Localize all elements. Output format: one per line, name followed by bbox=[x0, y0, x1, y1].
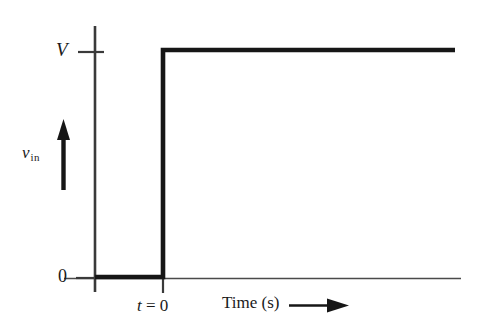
x-axis-title: Time (s) bbox=[222, 294, 279, 311]
y-tick-label-V: V bbox=[56, 40, 68, 59]
step-signal-trace bbox=[95, 50, 455, 277]
arrow-right-icon bbox=[289, 299, 349, 313]
y-tick-label-zero: 0 bbox=[58, 267, 67, 285]
arrow-up-icon bbox=[57, 119, 70, 190]
step-waveform-plot bbox=[0, 0, 499, 332]
y-axis-title: vin bbox=[22, 144, 40, 163]
y-axis-title-symbol: v bbox=[22, 143, 30, 162]
waveform-figure: V 0 vin t = 0 Time (s) bbox=[0, 0, 499, 332]
x-tick-label-value: = 0 bbox=[142, 296, 169, 315]
y-axis-title-subscript: in bbox=[30, 151, 40, 163]
x-tick-label-t0: t = 0 bbox=[137, 297, 168, 314]
